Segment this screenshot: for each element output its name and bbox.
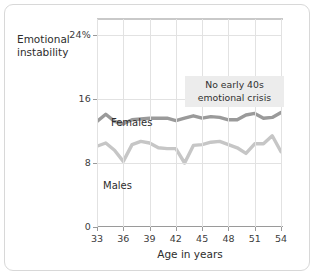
gridline-horizontal <box>97 35 281 36</box>
x-axis-tick-mark <box>123 227 124 231</box>
y-axis-tick-mark <box>93 99 97 100</box>
x-axis-tick-mark <box>176 227 177 231</box>
y-axis-title-line2: instability <box>17 46 68 58</box>
y-axis-tick-label: 8 <box>55 157 91 168</box>
series-line-males <box>97 136 281 163</box>
x-axis-tick-label: 51 <box>244 233 266 244</box>
y-axis-tick-mark <box>93 163 97 164</box>
gridline-horizontal <box>97 163 281 164</box>
x-axis-tick-label: 45 <box>191 233 213 244</box>
series-label-males: Males <box>103 180 132 191</box>
gridline-vertical <box>228 19 229 227</box>
x-axis-tick-label: 33 <box>86 233 108 244</box>
annotation-line2: emotional crisis <box>198 92 271 103</box>
chart-annotation: No early 40s emotional crisis <box>185 76 284 107</box>
y-axis-tick-label: 24% <box>55 29 91 40</box>
y-axis-tick-label: 0 <box>55 221 91 232</box>
x-axis-tick-label: 36 <box>112 233 134 244</box>
gridline-vertical <box>202 19 203 227</box>
gridline-vertical <box>281 19 282 227</box>
series-label-females: Females <box>111 117 152 128</box>
x-axis-tick-label: 54 <box>270 233 292 244</box>
x-axis-tick-label: 39 <box>139 233 161 244</box>
chart-canvas: Emotional instability 081624% 3336394245… <box>0 0 316 277</box>
x-axis-tick-mark <box>228 227 229 231</box>
x-axis-tick-mark <box>281 227 282 231</box>
x-axis-tick-label: 48 <box>217 233 239 244</box>
x-axis-tick-mark <box>255 227 256 231</box>
y-axis-tick-mark <box>93 35 97 36</box>
y-axis-tick-label: 16 <box>55 93 91 104</box>
x-axis-tick-mark <box>202 227 203 231</box>
gridline-vertical <box>255 19 256 227</box>
x-axis-title: Age in years <box>97 248 283 260</box>
annotation-line1: No early 40s <box>205 79 264 90</box>
x-axis-tick-mark <box>97 227 98 231</box>
x-axis-tick-label: 42 <box>165 233 187 244</box>
gridline-vertical <box>97 19 98 227</box>
x-axis-tick-mark <box>150 227 151 231</box>
gridline-vertical <box>176 19 177 227</box>
